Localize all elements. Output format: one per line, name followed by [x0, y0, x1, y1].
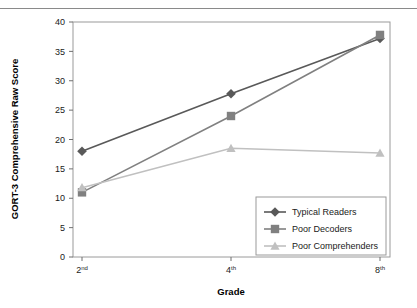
legend-item-label: Typical Readers: [292, 207, 357, 217]
x-axis-ticks: 2nd4th8th: [76, 257, 385, 275]
y-axis-ticks: 0510152025303540: [55, 17, 73, 262]
x-tick-label: 4th: [226, 265, 236, 276]
series-data-point: [376, 31, 384, 39]
y-tick-label: 0: [60, 252, 65, 262]
y-tick-label: 5: [60, 223, 65, 233]
chart-legend: Typical ReadersPoor DecodersPoor Compreh…: [256, 197, 386, 255]
x-tick-label: 8th: [375, 265, 385, 276]
x-tick-label: 2nd: [76, 265, 88, 276]
y-tick-label: 20: [55, 135, 65, 145]
y-axis-title: GORT-3 Comprehensive Raw Score: [9, 59, 20, 220]
data-series: [77, 34, 385, 156]
series-data-point: [227, 112, 235, 120]
legend-item[interactable]: Poor Decoders: [264, 224, 353, 234]
legend-marker-icon: [271, 225, 279, 233]
y-tick-label: 15: [55, 164, 65, 174]
y-tick-label: 10: [55, 193, 65, 203]
series-line: [82, 148, 380, 187]
x-axis-title: Grade: [217, 286, 244, 297]
data-series-layer: [77, 31, 385, 197]
data-series: [77, 144, 384, 192]
data-series: [78, 31, 384, 197]
figure-container: 0510152025303540 2nd4th8th GORT-3 Compre…: [0, 0, 417, 308]
y-tick-label: 40: [55, 17, 65, 27]
chart-plot: 0510152025303540 2nd4th8th GORT-3 Compre…: [0, 0, 417, 308]
series-data-point: [77, 146, 87, 156]
legend-item-label: Poor Comprehenders: [292, 241, 379, 251]
y-tick-label: 25: [55, 105, 65, 115]
series-data-point: [226, 89, 236, 99]
y-tick-label: 30: [55, 76, 65, 86]
y-tick-label: 35: [55, 47, 65, 57]
legend-item-label: Poor Decoders: [292, 224, 353, 234]
